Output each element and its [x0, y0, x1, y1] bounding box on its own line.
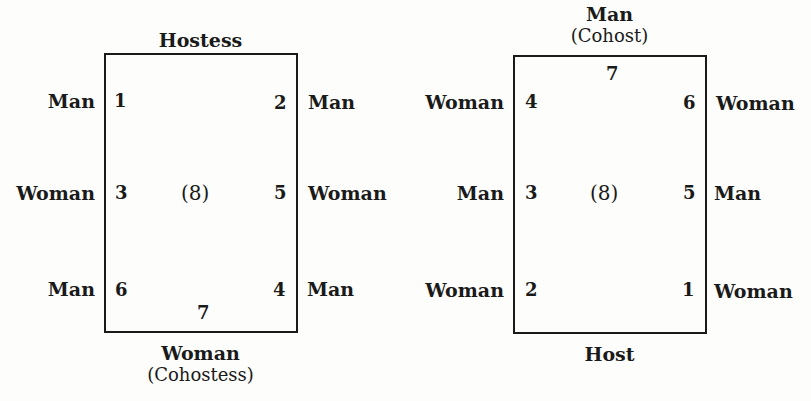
- seat-role-label: Man: [714, 184, 761, 203]
- seat-role-label: Woman: [308, 184, 387, 203]
- seat-number: 1: [682, 281, 695, 299]
- seat-role-label: Woman: [716, 94, 795, 113]
- seat-role-label: Man: [308, 93, 355, 112]
- seat-number: 6: [683, 94, 696, 112]
- seat-number: 6: [115, 281, 128, 299]
- seat-role-label: Woman: [714, 282, 793, 301]
- seat-number: 7: [606, 65, 619, 83]
- top-label: Hostess: [104, 30, 297, 52]
- seat-role-label: Woman: [0, 184, 95, 203]
- bottom-label: Host: [513, 344, 706, 366]
- seat-role-label: Woman: [400, 281, 504, 300]
- seat-number: 2: [525, 281, 538, 299]
- table-capacity: (8): [590, 183, 618, 203]
- seat-number: 5: [683, 184, 696, 202]
- top-label: Man (Cohost): [513, 4, 706, 47]
- seat-role-label: Woman: [400, 93, 504, 112]
- seat-role-label: Man: [400, 184, 504, 203]
- table-capacity: (8): [181, 183, 209, 203]
- seat-role-label: Man: [307, 280, 354, 299]
- seat-number: 2: [274, 94, 287, 112]
- seat-number: 3: [115, 184, 128, 202]
- seat-number: 7: [197, 304, 210, 322]
- seat-number: 1: [114, 92, 127, 110]
- seat-number: 5: [274, 184, 287, 202]
- seat-role-label: Man: [0, 280, 95, 299]
- seat-number: 4: [525, 93, 538, 111]
- seat-number: 4: [273, 281, 286, 299]
- seat-number: 3: [525, 184, 538, 202]
- seat-role-label: Man: [0, 92, 95, 111]
- bottom-label: Woman (Cohostess): [104, 343, 297, 386]
